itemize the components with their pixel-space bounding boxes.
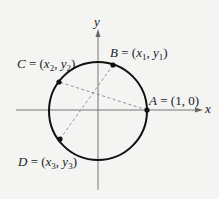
x-axis-label: x (204, 101, 211, 116)
point-a (144, 107, 149, 112)
y-axis-label: y (92, 14, 100, 29)
label-b: B = (x1, y1) (110, 45, 168, 62)
unit-circle-diagram: x y A = (1, 0) B = (x1, y1) C = (x2, y2)… (0, 0, 219, 199)
equals: = (26, 56, 40, 71)
label-a-name: A (148, 93, 157, 108)
label-d: D = (x3, y3) (17, 154, 77, 171)
label-a-coords: (1, 0) (171, 93, 199, 108)
chord-b-d (60, 65, 113, 139)
y-axis-arrow-icon (96, 29, 101, 37)
paren-close: ) (163, 45, 167, 60)
point-c (56, 79, 61, 84)
equals: = (157, 93, 171, 108)
point-d (57, 136, 62, 141)
equals: = (27, 154, 41, 169)
label-a: A = (1, 0) (148, 93, 199, 108)
equals: = (118, 45, 132, 60)
label-c: C = (x2, y2) (17, 56, 75, 73)
point-b (110, 62, 115, 67)
chord-a-c (59, 82, 147, 110)
label-d-name: D (17, 154, 28, 169)
x-axis-arrow-icon (195, 108, 203, 113)
label-c-name: C (17, 56, 26, 71)
points (56, 62, 149, 141)
label-b-name: B (110, 45, 118, 60)
paren-close: ) (71, 56, 75, 71)
paren-close: ) (73, 154, 77, 169)
